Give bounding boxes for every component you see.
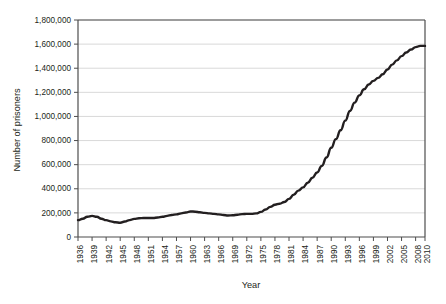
y-tick-label-1600000: 1,600,000: [35, 40, 72, 49]
y-tick-label-1800000: 1,800,000: [35, 16, 72, 25]
x-tick-label-2002: 2002: [386, 245, 395, 264]
x-tick-marks: [78, 237, 425, 241]
x-tick-label-1969: 1969: [231, 245, 240, 264]
x-tick-label-1948: 1948: [133, 245, 142, 264]
x-tick-label-1960: 1960: [189, 245, 198, 264]
x-tick-label-1990: 1990: [330, 245, 339, 264]
x-tick-label-1951: 1951: [147, 245, 156, 264]
x-tick-label-1963: 1963: [203, 245, 212, 264]
prisoner-population-chart-figure: 0200,000400,000600,000800,0001,000,0001,…: [0, 0, 446, 304]
x-tick-label-1942: 1942: [105, 245, 114, 264]
series-line-0: [78, 46, 425, 223]
x-tick-label-1945: 1945: [119, 245, 128, 264]
x-tick-label-2005: 2005: [400, 245, 409, 264]
y-axis-title: Number of prisoners: [12, 88, 22, 172]
x-tick-label-1957: 1957: [175, 245, 184, 264]
y-tick-label-1400000: 1,400,000: [35, 64, 72, 73]
gridlines-group: [78, 20, 425, 213]
y-tick-label-1200000: 1,200,000: [35, 88, 72, 97]
y-tick-label-600000: 600,000: [41, 160, 71, 169]
x-tick-label-1975: 1975: [259, 245, 268, 264]
x-tick-label-1936: 1936: [76, 245, 85, 264]
x-tick-label-1978: 1978: [273, 245, 282, 264]
x-axis-title: Year: [242, 280, 261, 290]
x-tick-label-1972: 1972: [245, 245, 254, 264]
x-tick-label-1954: 1954: [161, 245, 170, 264]
x-tick-label-1966: 1966: [217, 245, 226, 264]
x-tick-label-1981: 1981: [287, 245, 296, 264]
x-tick-label-1987: 1987: [316, 245, 325, 264]
data-series-group: [78, 46, 425, 223]
x-tick-label-1999: 1999: [372, 245, 381, 264]
x-tick-label-1984: 1984: [301, 245, 310, 264]
chart-canvas: 0200,000400,000600,000800,0001,000,0001,…: [0, 0, 446, 304]
y-tick-label-800000: 800,000: [41, 136, 71, 145]
x-tick-labels: 1936193919421945194819511954195719601963…: [76, 245, 432, 264]
y-tick-label-400000: 400,000: [41, 184, 71, 193]
x-tick-label-2008: 2008: [414, 245, 423, 264]
y-tick-label-1000000: 1,000,000: [35, 112, 72, 121]
x-tick-label-1939: 1939: [90, 245, 99, 264]
x-tick-label-1996: 1996: [358, 245, 367, 264]
y-tick-label-0: 0: [66, 233, 71, 242]
y-tick-label-200000: 200,000: [41, 209, 71, 218]
x-tick-label-1993: 1993: [344, 245, 353, 264]
x-tick-label-2010: 2010: [423, 245, 432, 264]
plot-frame: [78, 20, 425, 237]
y-tick-labels: 0200,000400,000600,000800,0001,000,0001,…: [35, 16, 72, 242]
